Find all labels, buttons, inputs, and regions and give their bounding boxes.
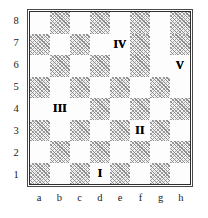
board-square-d8[interactable] bbox=[90, 12, 110, 34]
board-square-a7[interactable] bbox=[30, 34, 50, 56]
file-axis: a b c d e f g h bbox=[29, 190, 191, 206]
board-square-a6[interactable] bbox=[30, 55, 50, 77]
rank-label-6: 6 bbox=[8, 54, 24, 76]
board-square-f1[interactable] bbox=[130, 163, 150, 185]
board-square-a3[interactable] bbox=[30, 120, 50, 142]
board-square-b2[interactable] bbox=[50, 141, 70, 163]
file-label-a: a bbox=[29, 190, 49, 206]
board-square-h7[interactable] bbox=[170, 34, 190, 56]
board-square-g8[interactable] bbox=[150, 12, 170, 34]
board-square-e5[interactable] bbox=[110, 77, 130, 99]
board-square-a1[interactable] bbox=[30, 163, 50, 185]
board-square-c4[interactable] bbox=[70, 98, 90, 120]
region-marker-ii: II bbox=[130, 120, 150, 142]
board-square-g7[interactable] bbox=[150, 34, 170, 56]
board-square-f7[interactable] bbox=[130, 34, 150, 56]
rank-label-8: 8 bbox=[8, 10, 24, 32]
board-square-g2[interactable] bbox=[150, 141, 170, 163]
file-label-b: b bbox=[49, 190, 69, 206]
board-square-a5[interactable] bbox=[30, 77, 50, 99]
board-square-d1[interactable]: I bbox=[90, 163, 110, 185]
board-square-e3[interactable] bbox=[110, 120, 130, 142]
rank-label-5: 5 bbox=[8, 76, 24, 98]
region-marker-iv: IV bbox=[110, 34, 130, 56]
board-square-f8[interactable] bbox=[130, 12, 150, 34]
board-frame: IVVIIIIII bbox=[27, 9, 193, 187]
rank-label-7: 7 bbox=[8, 32, 24, 54]
board-grid: IVVIIIIII bbox=[30, 12, 190, 184]
board-square-c3[interactable] bbox=[70, 120, 90, 142]
board-square-d4[interactable] bbox=[90, 98, 110, 120]
board-square-d2[interactable] bbox=[90, 141, 110, 163]
board-square-e2[interactable] bbox=[110, 141, 130, 163]
board-square-d5[interactable] bbox=[90, 77, 110, 99]
board-square-g1[interactable] bbox=[150, 163, 170, 185]
board-square-b1[interactable] bbox=[50, 163, 70, 185]
region-marker-iii: III bbox=[50, 98, 70, 120]
board-square-b4[interactable]: III bbox=[50, 98, 70, 120]
file-label-e: e bbox=[110, 190, 130, 206]
board-square-c8[interactable] bbox=[70, 12, 90, 34]
chessboard-figure: 8 7 6 5 4 3 2 1 IVVIIIIII a b c d e f g … bbox=[0, 0, 208, 218]
file-label-g: g bbox=[151, 190, 171, 206]
board-square-e1[interactable] bbox=[110, 163, 130, 185]
board-square-g3[interactable] bbox=[150, 120, 170, 142]
board-square-c5[interactable] bbox=[70, 77, 90, 99]
board-square-c6[interactable] bbox=[70, 55, 90, 77]
board-square-e8[interactable] bbox=[110, 12, 130, 34]
board-square-a8[interactable] bbox=[30, 12, 50, 34]
board-square-d7[interactable] bbox=[90, 34, 110, 56]
board-square-a2[interactable] bbox=[30, 141, 50, 163]
board-square-b8[interactable] bbox=[50, 12, 70, 34]
board-square-g6[interactable] bbox=[150, 55, 170, 77]
rank-label-4: 4 bbox=[8, 98, 24, 120]
board-inner-border: IVVIIIIII bbox=[29, 11, 191, 185]
board-square-c2[interactable] bbox=[70, 141, 90, 163]
board-square-h1[interactable] bbox=[170, 163, 190, 185]
board-square-f6[interactable] bbox=[130, 55, 150, 77]
rank-axis: 8 7 6 5 4 3 2 1 bbox=[8, 10, 24, 186]
board-square-d6[interactable] bbox=[90, 55, 110, 77]
board-square-c7[interactable] bbox=[70, 34, 90, 56]
rank-label-1: 1 bbox=[8, 164, 24, 186]
board-square-e7[interactable]: IV bbox=[110, 34, 130, 56]
rank-label-3: 3 bbox=[8, 120, 24, 142]
board-square-h6[interactable]: V bbox=[170, 55, 190, 77]
board-square-b3[interactable] bbox=[50, 120, 70, 142]
board-square-b6[interactable] bbox=[50, 55, 70, 77]
board-square-h5[interactable] bbox=[170, 77, 190, 99]
board-square-h3[interactable] bbox=[170, 120, 190, 142]
board-square-h8[interactable] bbox=[170, 12, 190, 34]
board-square-f4[interactable] bbox=[130, 98, 150, 120]
board-square-f3[interactable]: II bbox=[130, 120, 150, 142]
board-square-a4[interactable] bbox=[30, 98, 50, 120]
file-label-d: d bbox=[90, 190, 110, 206]
board-square-g5[interactable] bbox=[150, 77, 170, 99]
rank-label-2: 2 bbox=[8, 142, 24, 164]
region-marker-i: I bbox=[90, 163, 110, 185]
board-square-h4[interactable] bbox=[170, 98, 190, 120]
board-square-d3[interactable] bbox=[90, 120, 110, 142]
board-square-h2[interactable] bbox=[170, 141, 190, 163]
board-square-e6[interactable] bbox=[110, 55, 130, 77]
file-label-h: h bbox=[171, 190, 191, 206]
board-square-e4[interactable] bbox=[110, 98, 130, 120]
file-label-c: c bbox=[70, 190, 90, 206]
file-label-f: f bbox=[130, 190, 150, 206]
board-square-b5[interactable] bbox=[50, 77, 70, 99]
board-square-f5[interactable] bbox=[130, 77, 150, 99]
board-square-c1[interactable] bbox=[70, 163, 90, 185]
board-square-g4[interactable] bbox=[150, 98, 170, 120]
region-marker-v: V bbox=[170, 55, 190, 77]
board-square-f2[interactable] bbox=[130, 141, 150, 163]
board-square-b7[interactable] bbox=[50, 34, 70, 56]
